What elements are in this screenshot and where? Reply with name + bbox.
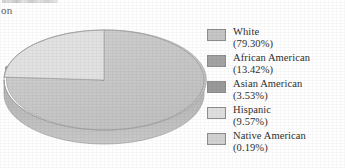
cropped-text-line-above — [2, 0, 58, 3]
legend-percent-asian-american: (3.53%) — [233, 90, 302, 102]
pie-chart-svg — [0, 20, 212, 152]
legend-swatch-hispanic — [207, 107, 226, 119]
legend-percent-native-american: (0.19%) — [233, 142, 306, 154]
legend-label-native-american: Native American (0.19%) — [233, 130, 306, 153]
legend-item-native-american: Native American (0.19%) — [207, 130, 345, 153]
legend-swatch-native-american — [207, 133, 226, 145]
legend-percent-african-american: (13.42%) — [233, 64, 310, 76]
legend-percent-hispanic: (9.57%) — [233, 116, 271, 128]
legend-item-white: White (79.30%) — [207, 26, 345, 49]
legend-label-asian-american: Asian American (3.53%) — [233, 78, 302, 101]
legend-name-native-american: Native American — [233, 130, 306, 142]
pie-chart — [0, 20, 212, 152]
legend-item-african-american: African American (13.42%) — [207, 52, 345, 75]
legend-label-african-american: African American (13.42%) — [233, 52, 310, 75]
legend-name-african-american: African American — [233, 52, 310, 64]
legend-name-hispanic: Hispanic — [233, 104, 271, 116]
legend-item-hispanic: Hispanic (9.57%) — [207, 104, 345, 127]
pie-chart-figure: on — [0, 0, 345, 168]
legend-swatch-asian-american — [207, 81, 226, 93]
legend-item-asian-american: Asian American (3.53%) — [207, 78, 345, 101]
legend-name-white: White — [233, 26, 273, 38]
legend-swatch-african-american — [207, 55, 226, 67]
pie-slice-hispanic — [4, 30, 104, 80]
cropped-caption-fragment: on — [1, 4, 12, 16]
legend-percent-white: (79.30%) — [233, 38, 273, 50]
legend: White (79.30%) African American (13.42%)… — [207, 26, 345, 156]
legend-name-asian-american: Asian American — [233, 78, 302, 90]
legend-label-white: White (79.30%) — [233, 26, 273, 49]
legend-swatch-white — [207, 29, 226, 41]
legend-label-hispanic: Hispanic (9.57%) — [233, 104, 271, 127]
